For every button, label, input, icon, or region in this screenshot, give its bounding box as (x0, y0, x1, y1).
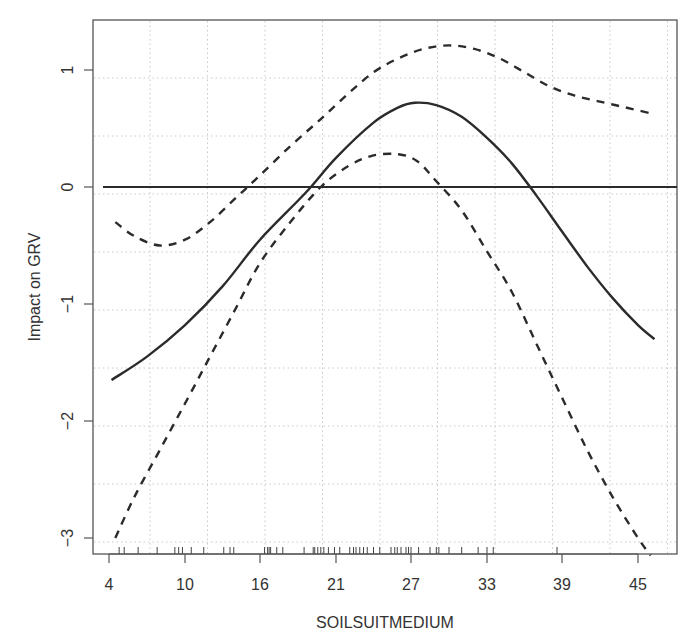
x-tick-label: 10 (176, 576, 194, 593)
lower-confidence-line (115, 154, 650, 556)
x-tick-label: 21 (327, 576, 345, 593)
y-tick-label: −1 (59, 295, 76, 313)
fitted-effect-line (112, 103, 655, 380)
x-tick-label: 27 (402, 576, 420, 593)
y-tick-label: −2 (59, 412, 76, 430)
y-tick-label: 1 (59, 65, 76, 74)
grid-lines (94, 21, 676, 553)
x-tick-label: 39 (553, 576, 571, 593)
x-axis-title: SOILSUITMEDIUM (316, 614, 454, 631)
series-group (112, 45, 655, 555)
x-tick-label: 4 (105, 576, 114, 593)
gam-partial-effect-chart: 410162127333945 10−1−2−3 SOILSUITMEDIUM … (0, 0, 695, 644)
x-tick-label: 33 (478, 576, 496, 593)
x-tick-label: 45 (629, 576, 647, 593)
x-axis: 410162127333945 (105, 554, 647, 593)
y-tick-label: 0 (59, 182, 76, 191)
x-tick-label: 16 (251, 576, 269, 593)
y-tick-label: −3 (59, 529, 76, 547)
y-axis: 10−1−2−3 (59, 65, 93, 547)
rug-marks (119, 547, 557, 554)
upper-confidence-line (115, 45, 650, 245)
y-axis-title: Impact on GRV (26, 232, 43, 341)
